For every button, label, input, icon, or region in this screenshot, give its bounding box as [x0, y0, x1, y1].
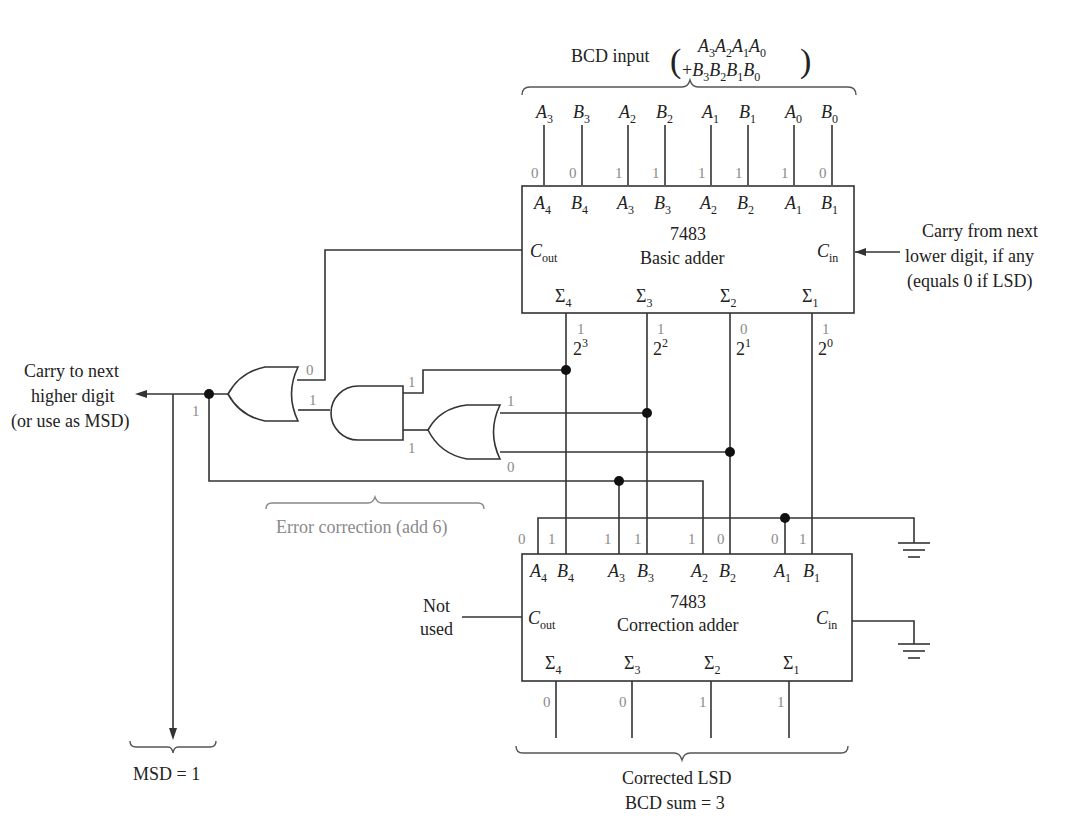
svg-text:1: 1 — [652, 165, 660, 181]
correction-adder-input-bits: 0 1 1 1 1 0 0 1 — [518, 531, 807, 547]
or-gate-weights — [428, 405, 500, 459]
svg-text:1: 1 — [799, 531, 807, 547]
basic-adder: A4 B4 A3 B3 A2 B2 A1 B1 7483 Basic adder… — [522, 186, 854, 313]
svg-text:1: 1 — [698, 165, 706, 181]
svg-text:1: 1 — [192, 403, 200, 419]
svg-text:1: 1 — [507, 393, 515, 409]
arrow-down-icon — [169, 728, 177, 740]
svg-text:1: 1 — [408, 440, 416, 456]
svg-text:1: 1 — [604, 531, 612, 547]
svg-text:A1: A1 — [701, 102, 719, 126]
svg-text:0: 0 — [531, 165, 539, 181]
error-correction-label: Error correction (add 6) — [266, 497, 484, 538]
bcd-input-label: BCD input — [571, 46, 650, 66]
svg-text:20: 20 — [818, 336, 833, 359]
svg-text:0: 0 — [619, 694, 627, 710]
svg-text:21: 21 — [736, 336, 751, 359]
svg-text:0: 0 — [740, 321, 748, 337]
svg-text:1: 1 — [548, 531, 556, 547]
msd-result: MSD = 1 — [130, 741, 216, 784]
carry-out-note: Carry to next higher digit (or use as MS… — [11, 361, 130, 432]
svg-text:Error correction (add 6): Error correction (add 6) — [276, 517, 447, 538]
pin-b3: B3 0 — [569, 102, 590, 185]
left-paren: ( — [670, 42, 681, 80]
arrow-left-icon — [855, 248, 866, 256]
svg-text:B3: B3 — [573, 102, 590, 126]
input-pins: A3 0 B3 0 A2 1 B2 1 A1 1 B1 1 — [531, 102, 838, 185]
pin-a1: A1 1 — [698, 102, 719, 185]
ground-icon — [898, 644, 930, 658]
svg-text:0: 0 — [507, 459, 515, 475]
svg-text:higher digit: higher digit — [31, 386, 115, 406]
correction-adder-part: 7483 — [670, 592, 706, 612]
bcd-input-line1: A3A2A1A0 — [697, 36, 766, 60]
correction-adder: 0 1 1 1 1 0 0 1 A4 B4 A3 B3 A2 B2 A1 B1 … — [420, 531, 852, 710]
ground-icon — [898, 543, 930, 557]
basic-adder-part: 7483 — [670, 224, 706, 244]
input-brace — [522, 80, 856, 95]
pin-b2: B2 1 — [652, 102, 673, 185]
and-gate — [331, 386, 403, 440]
svg-text:0: 0 — [819, 165, 827, 181]
not-used-label-1: Not — [423, 596, 450, 616]
correction-adder-name: Correction adder — [617, 615, 738, 635]
svg-text:A2: A2 — [618, 102, 636, 126]
svg-text:BCD sum = 3: BCD sum = 3 — [625, 793, 725, 813]
svg-text:1: 1 — [822, 321, 830, 337]
pin-b0: B0 0 — [819, 102, 838, 185]
svg-text:0: 0 — [518, 531, 526, 547]
svg-text:1: 1 — [688, 531, 696, 547]
svg-text:0: 0 — [717, 531, 725, 547]
svg-text:23: 23 — [573, 336, 588, 359]
not-used-label-2: used — [420, 619, 453, 639]
svg-text:0: 0 — [771, 531, 779, 547]
svg-text:(or use as MSD): (or use as MSD) — [11, 411, 130, 432]
svg-text:1: 1 — [615, 165, 623, 181]
svg-text:B2: B2 — [656, 102, 673, 126]
arrow-left-icon — [135, 390, 147, 398]
pin-a3: A3 0 — [531, 102, 553, 185]
svg-text:1: 1 — [735, 165, 743, 181]
svg-text:1: 1 — [657, 321, 665, 337]
svg-text:A0: A0 — [784, 102, 802, 126]
svg-text:B0: B0 — [821, 102, 838, 126]
svg-text:1: 1 — [634, 531, 642, 547]
svg-text:1: 1 — [577, 321, 585, 337]
carry-in: Carry from next lower digit, if any (equ… — [855, 221, 1038, 292]
bcd-input-header: BCD input ( A3A2A1A0 +B3B2B1B0 ) — [522, 36, 856, 95]
svg-text:Corrected LSD: Corrected LSD — [622, 768, 731, 788]
svg-text:MSD = 1: MSD = 1 — [133, 764, 200, 784]
svg-text:1: 1 — [408, 374, 416, 390]
svg-text:Carry to next: Carry to next — [24, 361, 119, 381]
svg-text:1: 1 — [781, 165, 789, 181]
svg-text:22: 22 — [653, 336, 668, 359]
svg-text:0: 0 — [543, 694, 551, 710]
pin-a2: A2 1 — [615, 102, 636, 185]
svg-text:1: 1 — [699, 694, 707, 710]
svg-text:A3: A3 — [535, 102, 553, 126]
bcd-adder-diagram: BCD input ( A3A2A1A0 +B3B2B1B0 ) A3 0 B3… — [0, 0, 1074, 823]
svg-text:Carry from next: Carry from next — [922, 221, 1038, 241]
svg-text:B1: B1 — [739, 102, 756, 126]
pin-b1: B1 1 — [735, 102, 756, 185]
or-gate-carry — [228, 367, 298, 421]
bcd-input-line2: +B3B2B1B0 — [682, 60, 760, 84]
basic-adder-outputs: 1 23 1 22 0 21 1 20 — [573, 321, 833, 359]
svg-text:1: 1 — [309, 392, 317, 408]
svg-text:(equals 0 if LSD): (equals 0 if LSD) — [907, 271, 1032, 292]
svg-text:0: 0 — [306, 362, 314, 378]
right-paren: ) — [800, 42, 811, 80]
lsd-result: Corrected LSD BCD sum = 3 — [516, 746, 848, 813]
basic-adder-name: Basic adder — [640, 248, 724, 268]
svg-text:lower digit, if any: lower digit, if any — [905, 246, 1034, 266]
svg-text:0: 0 — [569, 165, 577, 181]
correction-adder-output-bits: 0 0 1 1 — [543, 694, 785, 710]
svg-text:1: 1 — [777, 694, 785, 710]
pin-a0: A0 1 — [781, 102, 802, 185]
